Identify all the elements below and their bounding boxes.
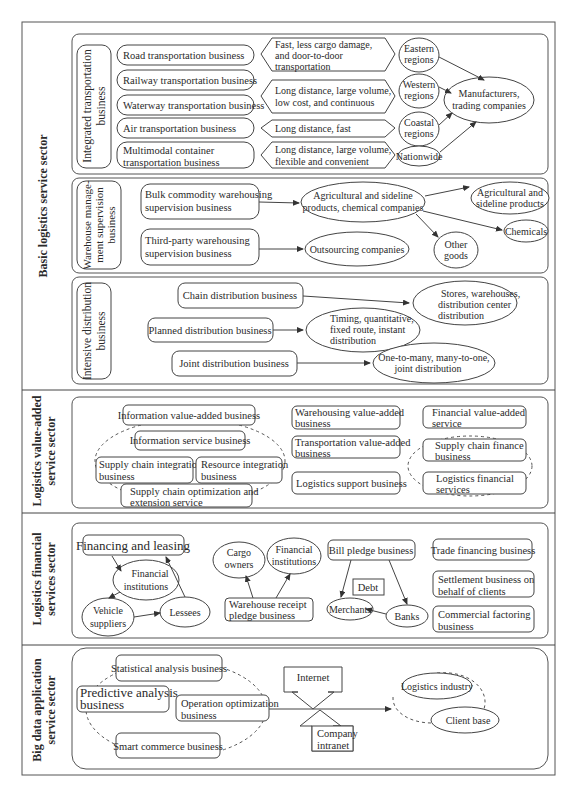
svg-text:Timing, quantitative,: Timing, quantitative,: [330, 313, 414, 324]
svg-text:Internet: Internet: [297, 672, 330, 683]
svg-text:intranet: intranet: [317, 740, 349, 751]
svg-text:Outsourcing companies: Outsourcing companies: [310, 244, 405, 255]
svg-text:Information service business: Information service business: [130, 435, 251, 446]
svg-text:Chain distribution business: Chain distribution business: [183, 290, 297, 301]
svg-text:regions: regions: [404, 90, 434, 101]
svg-text:One-to-many, many-to-one,: One-to-many, many-to-one,: [378, 352, 489, 363]
svg-text:Stores, warehouses,: Stores, warehouses,: [441, 288, 520, 299]
svg-text:Smart commerce business: Smart commerce business: [113, 741, 223, 752]
internet-callout: Internet: [284, 667, 342, 709]
svg-text:Logistics support business: Logistics support business: [296, 478, 407, 489]
arrow-chain-to-stores: [303, 296, 409, 303]
svg-text:joint distribution: joint distribution: [394, 363, 462, 374]
svg-text:Logistics industry: Logistics industry: [401, 681, 473, 692]
svg-text:business: business: [438, 621, 474, 632]
svg-text:owners: owners: [225, 559, 254, 570]
svg-text:business: business: [295, 448, 331, 459]
arrow-to-chemicals: [423, 211, 502, 230]
svg-text:Fast, less cargo damage,: Fast, less cargo damage,: [275, 39, 372, 50]
svg-text:Air transportation business: Air transportation business: [123, 123, 236, 134]
svg-text:service sector: service sector: [44, 416, 58, 486]
svg-text:Third-party warehousing: Third-party warehousing: [145, 235, 250, 246]
svg-text:Cargo: Cargo: [227, 547, 251, 558]
svg-text:Trade financing business: Trade financing business: [431, 545, 536, 556]
svg-text:Settlement business on: Settlement business on: [438, 574, 535, 585]
svg-text:Statistical analysis business: Statistical analysis business: [111, 663, 227, 674]
transport-feature-list: Fast, less cargo damage, and door-to-doo…: [261, 38, 395, 168]
svg-text:business: business: [295, 418, 331, 429]
arrow-coastal: [439, 113, 452, 125]
svg-text:institutions: institutions: [124, 581, 169, 592]
svg-text:Lessees: Lessees: [169, 607, 200, 618]
svg-text:Intensive distribution: Intensive distribution: [81, 282, 93, 380]
svg-text:Supply chain finance: Supply chain finance: [435, 440, 524, 451]
svg-text:Commercial factoring: Commercial factoring: [438, 609, 531, 620]
svg-text:Logistics value-added: Logistics value-added: [30, 395, 44, 506]
svg-text:institutions: institutions: [272, 556, 317, 567]
svg-text:extension service: extension service: [130, 497, 203, 508]
svg-text:fixed route, instant: fixed route, instant: [330, 324, 405, 335]
svg-text:trading companies: trading companies: [452, 100, 526, 111]
arrow-bulk-to-agri: [259, 202, 299, 203]
svg-text:products, chemical companies: products, chemical companies: [303, 202, 424, 213]
svg-text:business: business: [95, 86, 107, 126]
arrow-receipt-to-cargo-owners: [246, 576, 253, 598]
svg-text:Banks: Banks: [395, 611, 420, 622]
svg-text:Warehouse receipt: Warehouse receipt: [229, 599, 307, 610]
svg-text:Big data application: Big data application: [30, 658, 44, 762]
svg-text:service: service: [432, 418, 462, 429]
svg-text:pledge business: pledge business: [229, 610, 295, 621]
svg-text:Information value-added busine: Information value-added business: [118, 410, 260, 421]
sector-label-financial: Logistics financial services sector: [30, 532, 58, 626]
arrow-bill-to-banks: [389, 560, 407, 604]
svg-text:distribution center: distribution center: [438, 299, 512, 310]
transport-business-list: Road transportation business Railway tra…: [117, 45, 264, 168]
svg-text:regions: regions: [404, 128, 434, 139]
svg-text:Merchants: Merchants: [329, 604, 371, 615]
sector-label-big-data: Big data application service sector: [30, 658, 58, 762]
svg-text:and door-to-door: and door-to-door: [275, 50, 344, 61]
svg-text:suppliers: suppliers: [90, 618, 126, 629]
arrow-eastern: [439, 57, 484, 80]
svg-text:Bill pledge business: Bill pledge business: [329, 545, 414, 556]
svg-text:business: business: [201, 471, 237, 482]
svg-text:Multimodal container: Multimodal container: [123, 145, 215, 156]
arrow-to-agri-products: [425, 187, 469, 196]
svg-text:business: business: [95, 311, 107, 351]
sector-label-basic: Basic logistics service sector: [36, 134, 50, 278]
svg-text:services: services: [436, 484, 470, 495]
arrow-suppliers-to-lessees: [134, 613, 160, 617]
svg-text:Long distance, large volume,: Long distance, large volume,: [275, 144, 391, 155]
intranet-callout: Company intranet: [300, 710, 359, 751]
svg-text:Financial: Financial: [131, 568, 168, 579]
svg-text:Supply chain optimization and: Supply chain optimization and: [130, 486, 259, 497]
svg-text:transportation business: transportation business: [123, 157, 220, 168]
svg-text:Other: Other: [445, 239, 468, 250]
svg-text:Warehousing value-added: Warehousing value-added: [295, 407, 405, 418]
svg-text:Manufacturers,: Manufacturers,: [459, 88, 520, 99]
svg-text:ment supervision: ment supervision: [93, 187, 105, 263]
svg-text:Logistics financial: Logistics financial: [436, 473, 514, 484]
svg-text:Warehouse manage-: Warehouse manage-: [81, 180, 93, 270]
svg-text:Debt: Debt: [358, 582, 378, 593]
customer-dashed-arc-bottom: [393, 697, 432, 723]
svg-text:Chemicals: Chemicals: [505, 226, 547, 237]
svg-text:Planned distribution business: Planned distribution business: [148, 325, 271, 336]
svg-text:Supply chain integration: Supply chain integration: [99, 459, 203, 470]
svg-text:Resource integration: Resource integration: [201, 459, 289, 470]
svg-text:Long distance, large volume,: Long distance, large volume,: [275, 85, 391, 96]
svg-text:sideline products: sideline products: [476, 198, 544, 209]
svg-text:business: business: [80, 697, 124, 712]
svg-text:Financial value-added: Financial value-added: [432, 407, 526, 418]
svg-text:low cost, and continuous: low cost, and continuous: [275, 97, 375, 108]
svg-text:Transportation value-added: Transportation value-added: [295, 437, 411, 448]
svg-text:distribution: distribution: [438, 310, 484, 321]
svg-text:supervision business: supervision business: [145, 248, 232, 259]
svg-text:business: business: [181, 710, 217, 721]
svg-text:Financing and leasing: Financing and leasing: [76, 538, 191, 553]
svg-text:transportation: transportation: [275, 61, 331, 72]
arrow-to-other-goods: [416, 214, 438, 237]
svg-text:Agricultural and sideline: Agricultural and sideline: [313, 190, 413, 201]
svg-text:Vehicle: Vehicle: [93, 605, 124, 616]
svg-text:business: business: [435, 451, 471, 462]
